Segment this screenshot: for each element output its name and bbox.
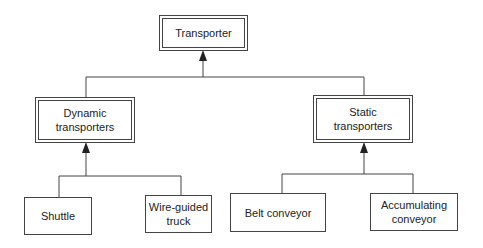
node-transporter: Transporter xyxy=(159,15,248,51)
node-label: Transporter xyxy=(175,26,231,40)
node-wire-guided-truck: Wire-guided truck xyxy=(145,195,212,233)
node-label: Static transporters xyxy=(334,105,393,133)
node-static-transporters: Static transporters xyxy=(313,95,413,143)
node-belt-conveyor: Belt conveyor xyxy=(230,193,326,232)
node-accumulating-conveyor: Accumulating conveyor xyxy=(370,193,458,231)
arrow-to-transporter-icon xyxy=(199,50,207,61)
node-label: Wire-guided truck xyxy=(149,200,208,228)
node-label: Dynamic transporters xyxy=(56,106,115,134)
arrow-to-dynamic-icon xyxy=(82,142,90,153)
node-dynamic-transporters: Dynamic transporters xyxy=(35,97,135,143)
node-label: Shuttle xyxy=(41,209,75,223)
node-label: Belt conveyor xyxy=(245,206,312,220)
arrow-to-static-icon xyxy=(360,142,368,153)
node-label: Accumulating conveyor xyxy=(381,198,447,226)
node-shuttle: Shuttle xyxy=(24,197,92,235)
